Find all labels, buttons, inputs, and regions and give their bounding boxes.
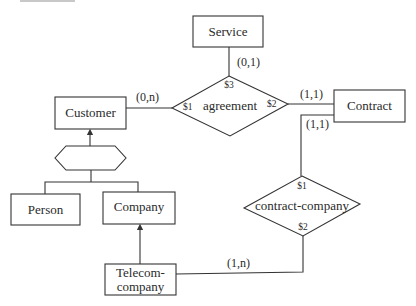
- generalization-hexagon: [55, 146, 126, 170]
- entity-service[interactable]: Service: [193, 16, 263, 47]
- entity-customer[interactable]: Customer: [55, 97, 126, 129]
- entity-person-label: Person: [28, 202, 64, 217]
- relationship-agreement-label: agreement: [203, 98, 258, 113]
- cardinality-telecom-contractcompany: (1,n): [227, 256, 250, 270]
- contract-company-role-1: $1: [297, 181, 307, 191]
- entity-company[interactable]: Company: [103, 192, 175, 224]
- contract-company-role-2: $2: [298, 222, 308, 232]
- relationship-contract-company[interactable]: contract-company $1 $2: [244, 176, 360, 236]
- entity-contract[interactable]: Contract: [334, 90, 405, 122]
- entity-telecom-label-line2: company: [117, 279, 165, 294]
- agreement-role-3: $3: [224, 80, 234, 90]
- entity-telecom-label-line1: Telecom-: [116, 265, 165, 280]
- entity-person[interactable]: Person: [11, 194, 80, 225]
- entity-telecom-company[interactable]: Telecom- company: [105, 264, 176, 295]
- agreement-role-2: $2: [267, 99, 277, 109]
- cardinality-service-agreement: (0,1): [237, 55, 260, 69]
- agreement-role-1: $1: [183, 102, 193, 112]
- cardinality-contract-agreement: (1,1): [300, 87, 323, 101]
- entity-service-label: Service: [209, 24, 248, 39]
- cardinality-contract-contractcompany: (1,1): [306, 117, 329, 131]
- relationship-agreement[interactable]: agreement $1 $2 $3: [172, 76, 288, 136]
- er-diagram: Service Customer Contract Person Company…: [0, 0, 416, 306]
- entity-company-label: Company: [114, 199, 165, 214]
- relationship-contract-company-label: contract-company: [255, 198, 349, 213]
- entity-contract-label: Contract: [347, 98, 392, 113]
- entity-customer-label: Customer: [65, 105, 116, 120]
- cardinality-customer-agreement: (0,n): [136, 90, 159, 104]
